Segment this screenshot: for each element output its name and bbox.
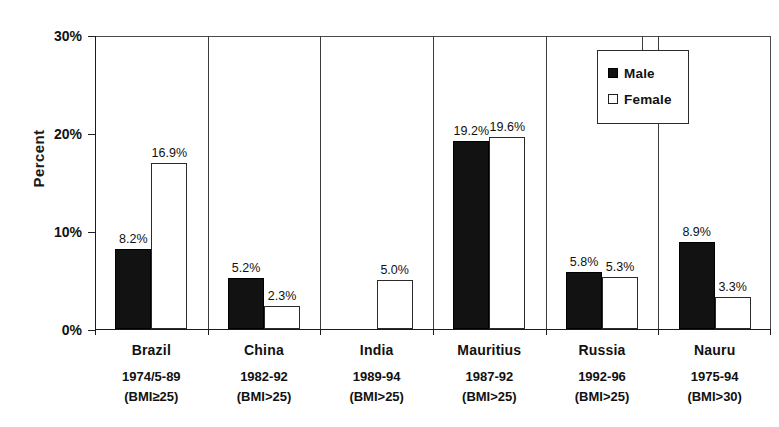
y-axis-title: Percent (30, 99, 47, 219)
bar-female (264, 306, 300, 329)
bar-male (679, 242, 715, 329)
y-axis-line (95, 36, 96, 330)
y-axis-tick-mark (88, 134, 95, 135)
bar-value-label: 2.3% (268, 289, 297, 303)
y-axis-tick-label: 20% (30, 126, 82, 142)
panel-divider (208, 36, 209, 330)
y-axis-tick-label: 10% (30, 224, 82, 240)
bar-value-label: 3.3% (718, 280, 747, 294)
bar-male (453, 141, 489, 329)
bar-value-label: 5.8% (570, 255, 599, 269)
category-name: China (237, 342, 292, 358)
plot-right-border (770, 36, 771, 330)
category-years: 1989-94 (349, 369, 404, 384)
panel-divider (320, 36, 321, 330)
x-axis-tick-mark (433, 329, 434, 335)
category-bmi-criterion: (BMI>25) (457, 389, 521, 404)
bar-value-label: 19.6% (490, 120, 525, 134)
bar-value-label: 8.2% (119, 232, 148, 246)
x-axis-tick-mark (546, 329, 547, 335)
bar-value-label: 5.2% (232, 261, 261, 275)
y-axis-tick-mark (88, 232, 95, 233)
bar-female (602, 277, 638, 329)
bar-male (566, 272, 602, 329)
x-axis-category-nauru: Nauru1975-94(BMI>30) (687, 342, 742, 404)
category-years: 1987-92 (457, 369, 521, 384)
open-square-icon (608, 94, 618, 104)
bar-value-label: 5.0% (380, 263, 409, 277)
bar-value-label: 19.2% (454, 124, 489, 138)
category-years: 1982-92 (237, 369, 292, 384)
legend-item-male: Male (608, 60, 688, 86)
panel-divider (433, 36, 434, 330)
bar-male (115, 249, 151, 329)
bar-female (151, 163, 187, 329)
chart-legend: Male Female (597, 50, 689, 124)
x-axis-tick-mark (770, 329, 771, 335)
category-years: 1974/5-89 (122, 369, 181, 384)
category-bmi-criterion: (BMI>25) (575, 389, 630, 404)
category-years: 1992-96 (575, 369, 630, 384)
x-axis-category-brazil: Brazil1974/5-89(BMI≥25) (122, 342, 181, 404)
legend-leader-line (642, 37, 643, 51)
legend-label-female: Female (624, 92, 672, 107)
x-axis-tick-mark (320, 329, 321, 335)
y-axis-tick-mark (88, 330, 95, 331)
category-bmi-criterion: (BMI>30) (687, 389, 742, 404)
legend-label-male: Male (624, 66, 655, 81)
category-name: Mauritius (457, 342, 521, 358)
bar-value-label: 16.9% (152, 146, 187, 160)
x-axis-category-india: India1989-94(BMI>25) (349, 342, 404, 404)
y-axis-tick-mark (88, 36, 95, 37)
x-axis-tick-mark (208, 329, 209, 335)
category-years: 1975-94 (687, 369, 742, 384)
legend-item-female: Female (608, 86, 688, 112)
y-axis-tick-label: 30% (30, 28, 82, 44)
bar-female (489, 137, 525, 329)
category-bmi-criterion: (BMI>25) (237, 389, 292, 404)
x-axis-category-china: China1982-92(BMI>25) (237, 342, 292, 404)
bar-male (228, 278, 264, 329)
bar-value-label: 8.9% (682, 225, 711, 239)
panel-divider (546, 36, 547, 330)
x-axis-category-mauritius: Mauritius1987-92(BMI>25) (457, 342, 521, 404)
x-axis-category-russia: Russia1992-96(BMI>25) (575, 342, 630, 404)
bar-female (377, 280, 413, 329)
category-name: Brazil (122, 342, 181, 358)
bar-female (715, 297, 751, 329)
x-axis-tick-mark (95, 329, 96, 335)
chart-figure: Percent 30%20%10%0% 8.2%16.9%5.2%2.3%5.0… (0, 0, 779, 427)
category-bmi-criterion: (BMI≥25) (122, 389, 181, 404)
category-bmi-criterion: (BMI>25) (349, 389, 404, 404)
category-name: India (349, 342, 404, 358)
y-axis-tick-label: 0% (30, 322, 82, 338)
filled-square-icon (608, 68, 618, 78)
category-name: Nauru (687, 342, 742, 358)
bar-value-label: 5.3% (606, 260, 635, 274)
x-axis-tick-mark (658, 329, 659, 335)
category-name: Russia (575, 342, 630, 358)
